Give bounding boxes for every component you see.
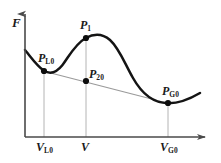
point-label-pg0-sub: G0 <box>169 90 179 99</box>
tick-label-vg0-sub: G0 <box>168 146 178 155</box>
point-label-pl0-sub: L0 <box>45 57 54 66</box>
point-label-p20-sub: 20 <box>96 73 104 82</box>
plot-canvas <box>0 0 221 163</box>
tick-label-vl0-main: V <box>36 140 44 154</box>
tick-label-vg0-main: V <box>160 140 168 154</box>
y-axis-label: F <box>12 16 21 29</box>
point-label-p20: P20 <box>89 68 104 80</box>
point-marker-p1 <box>83 35 89 41</box>
point-label-pl0: PL0 <box>38 52 54 64</box>
tick-label-vl0-sub: L0 <box>44 146 53 155</box>
tick-label-vl0: VL0 <box>36 141 53 153</box>
point-label-p1-sub: 1 <box>87 24 91 33</box>
tick-label-v: V <box>81 141 89 153</box>
point-marker-pl0 <box>41 68 47 74</box>
tick-label-v-main: V <box>81 140 89 154</box>
y-axis-label-text: F <box>12 15 21 30</box>
point-label-p1: P1 <box>80 19 91 31</box>
point-label-pg0: PG0 <box>162 85 179 97</box>
data-point-markers <box>41 35 171 106</box>
tick-label-vg0: VG0 <box>160 141 178 153</box>
free-energy-figure: F PL0 P1 P20 PG0 VL0 V VG0 <box>0 0 221 163</box>
point-marker-pg0 <box>165 100 171 106</box>
